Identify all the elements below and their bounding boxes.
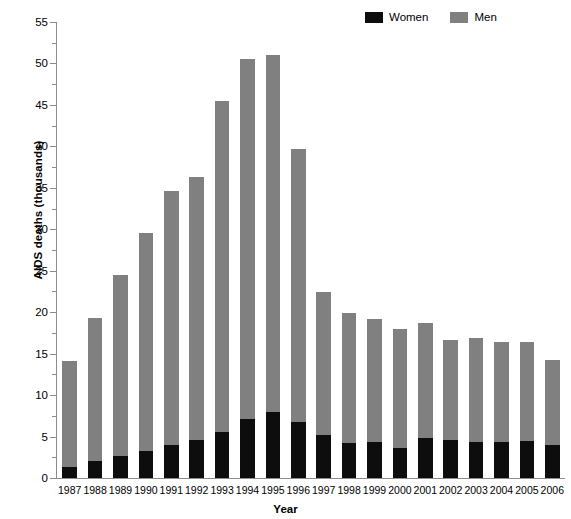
bar-segment-men [393, 329, 408, 448]
bar-segment-women [113, 456, 128, 478]
x-axis-title: Year [0, 503, 571, 515]
bar-group [316, 22, 331, 478]
bar-segment-men [189, 177, 204, 440]
x-tick-label: 1995 [260, 484, 285, 496]
legend-entry-women: Women [365, 12, 428, 23]
bar-segment-men [367, 319, 382, 443]
bar-group [520, 22, 535, 478]
bar-group [291, 22, 306, 478]
bar-segment-women [164, 445, 179, 478]
bar-group [240, 22, 255, 478]
y-tick-label: 15 [35, 354, 48, 355]
bar-group [113, 22, 128, 478]
bar-segment-men [494, 342, 509, 441]
x-tick-label: 2003 [463, 484, 488, 496]
x-tick-label: 2002 [438, 484, 463, 496]
x-tick-label: 2001 [413, 484, 438, 496]
bar-segment-women [367, 442, 382, 478]
x-tick-label: 1987 [57, 484, 82, 496]
bar-segment-women [342, 443, 357, 478]
bar-segment-women [291, 422, 306, 478]
bar-segment-men [88, 318, 103, 461]
bar-group [88, 22, 103, 478]
bar-group [164, 22, 179, 478]
x-tick-label: 1992 [184, 484, 209, 496]
bar-segment-men [342, 313, 357, 443]
x-tick-label: 1989 [108, 484, 133, 496]
bar-segment-women [88, 461, 103, 478]
x-tick-label: 2006 [540, 484, 565, 496]
bar-segment-women [189, 440, 204, 478]
x-tick-label: 1990 [133, 484, 158, 496]
bar-segment-men [164, 191, 179, 445]
bar-segment-women [62, 467, 77, 478]
y-tick-label: 25 [35, 271, 48, 272]
bar-segment-men [469, 338, 484, 442]
bar-segment-men [545, 360, 560, 445]
bar-segment-women [545, 445, 560, 478]
bar-segment-men [266, 55, 281, 412]
y-tick-major [50, 478, 57, 479]
bar-segment-women [418, 438, 433, 478]
bar-series-container [57, 22, 565, 478]
bar-segment-women [316, 435, 331, 478]
y-tick-label: 40 [35, 146, 48, 147]
y-tick-label: 50 [35, 63, 48, 64]
y-tick-label: 30 [35, 229, 48, 230]
x-tick-label: 1988 [82, 484, 107, 496]
y-tick-major [50, 229, 57, 230]
bar-group [393, 22, 408, 478]
bar-group [443, 22, 458, 478]
x-tick-label: 1994 [235, 484, 260, 496]
y-tick-major [50, 63, 57, 64]
y-tick-major [50, 354, 57, 355]
bar-segment-men [316, 292, 331, 435]
y-tick-label: 5 [42, 437, 48, 438]
bar-segment-women [139, 451, 154, 478]
bar-segment-men [418, 323, 433, 438]
bar-segment-men [139, 233, 154, 451]
x-tick-label: 1993 [209, 484, 234, 496]
bar-group [418, 22, 433, 478]
bar-segment-men [291, 149, 306, 423]
y-tick-label: 55 [35, 22, 48, 23]
bar-segment-men [240, 59, 255, 419]
legend-swatch-women [365, 12, 383, 23]
bar-segment-women [266, 412, 281, 478]
legend-label-men: Men [474, 12, 496, 23]
bar-segment-women [469, 442, 484, 478]
x-tick-label: 1997 [311, 484, 336, 496]
bar-group [342, 22, 357, 478]
y-tick-major [50, 146, 57, 147]
x-tick-label: 2000 [387, 484, 412, 496]
x-tick-label: 2004 [489, 484, 514, 496]
bar-segment-women [240, 419, 255, 478]
y-tick-label: 35 [35, 188, 48, 189]
x-tick-label: 1996 [286, 484, 311, 496]
bar-segment-men [215, 101, 230, 432]
bar-segment-women [393, 448, 408, 478]
bar-segment-women [215, 432, 230, 478]
bar-segment-men [62, 361, 77, 467]
bar-segment-women [520, 441, 535, 478]
bar-group [189, 22, 204, 478]
y-tick-label: 45 [35, 105, 48, 106]
x-tick-label: 1991 [159, 484, 184, 496]
bar-group [494, 22, 509, 478]
x-axis-line [56, 478, 565, 479]
bar-group [139, 22, 154, 478]
bar-group [469, 22, 484, 478]
y-tick-major [50, 188, 57, 189]
y-tick-label: 20 [35, 312, 48, 313]
bar-segment-men [520, 342, 535, 441]
bar-group [215, 22, 230, 478]
x-tick-label: 1998 [336, 484, 361, 496]
y-tick-major [50, 271, 57, 272]
y-tick-major [50, 437, 57, 438]
bar-group [266, 22, 281, 478]
aids-deaths-stacked-bar-chart: Women Men AIDS deaths (thousands) 051015… [0, 0, 571, 519]
bar-segment-men [443, 340, 458, 440]
y-tick-major [50, 312, 57, 313]
bar-segment-women [494, 442, 509, 478]
bar-segment-women [443, 440, 458, 478]
